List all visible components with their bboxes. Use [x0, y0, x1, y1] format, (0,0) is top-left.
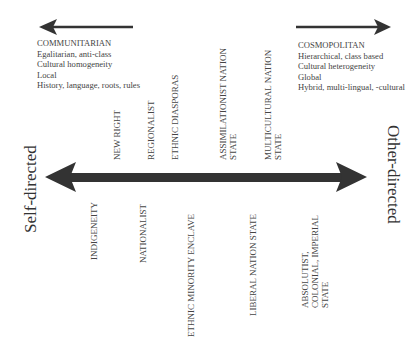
communitarian-arrow-icon [39, 19, 133, 35]
cosmopolitan-line: Global [298, 72, 405, 83]
communitarian-line: History, language, roots, rules [37, 80, 140, 91]
main-axis-arrow-icon [45, 162, 367, 192]
communitarian-title: COMMUNITARIAN [37, 38, 140, 49]
communitarian-line: Local [37, 70, 140, 81]
label-liberal-nation-state: LIBERAL NATION STATE [248, 214, 258, 316]
label-multicultural-nation-state: MULTICULTURAL NATION STATE [263, 50, 283, 160]
label-ethnic-minority-enclave: ETHNIC MINORITY ENCLAVE [186, 214, 196, 337]
label-absolutist-colonial-imperial-state: ABSOLUTIST, COLONIAL, IMPERIAL STATE [300, 215, 330, 308]
self-directed-label: Self-directed [22, 145, 40, 233]
label-nationalist: NATIONALIST [138, 204, 148, 263]
spectrum-diagram: COMMUNITARIAN Egalitarian, anti-class Cu… [0, 0, 420, 352]
cosmopolitan-line: Cultural heterogeneity [298, 61, 405, 72]
other-directed-label: Other-directed [384, 125, 402, 224]
cosmopolitan-arrow-icon [296, 19, 391, 35]
label-indigeneity: INDIGENEITY [89, 202, 99, 260]
communitarian-line: Egalitarian, anti-class [37, 49, 140, 60]
label-assimilationist-nation-state: ASSIMILATIONIST NATION STATE [218, 48, 238, 160]
cosmopolitan-title: COSMOPOLITAN [298, 40, 405, 51]
label-new-right: NEW RIGHT [112, 110, 122, 160]
cosmopolitan-line: Hierarchical, class based [298, 51, 405, 62]
communitarian-description: COMMUNITARIAN Egalitarian, anti-class Cu… [37, 38, 140, 91]
label-ethnic-diasporas: ETHNIC DIASPORAS [170, 75, 180, 160]
label-regionalist: REGIONALIST [146, 101, 156, 161]
cosmopolitan-description: COSMOPOLITAN Hierarchical, class based C… [298, 40, 405, 93]
communitarian-line: Cultural homogeneity [37, 59, 140, 70]
cosmopolitan-line: Hybrid, multi-lingual, -cultural [298, 82, 405, 93]
